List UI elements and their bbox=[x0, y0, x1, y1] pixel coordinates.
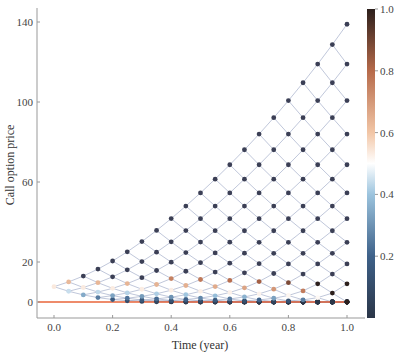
tree-edge bbox=[230, 179, 245, 193]
tree-edge bbox=[274, 193, 289, 206]
colorbar-tick-label: 0.6 bbox=[380, 127, 394, 139]
colorbar-tick-label: 0.8 bbox=[380, 65, 394, 77]
tree-edge bbox=[288, 193, 303, 206]
tree-edge bbox=[215, 242, 230, 253]
tree-nodes bbox=[52, 22, 350, 305]
tree-node bbox=[330, 291, 335, 296]
tree-edge bbox=[113, 261, 128, 270]
tree-node bbox=[257, 298, 262, 303]
tree-edge bbox=[274, 118, 289, 134]
tree-edge bbox=[303, 284, 318, 291]
tree-node bbox=[125, 290, 130, 295]
tree-edge bbox=[332, 231, 347, 243]
tree-edge bbox=[259, 134, 274, 150]
tree-edge bbox=[83, 269, 98, 276]
tree-edge bbox=[98, 261, 113, 269]
tree-edge bbox=[288, 165, 303, 179]
tree-edge bbox=[318, 179, 333, 193]
tree-edge bbox=[230, 193, 245, 206]
tree-edge bbox=[171, 253, 186, 263]
tree-node bbox=[96, 280, 101, 285]
tree-node bbox=[227, 278, 232, 283]
tree-node bbox=[315, 281, 320, 286]
tree-edge bbox=[171, 279, 186, 286]
tree-edge bbox=[244, 231, 259, 243]
tree-edge bbox=[230, 206, 245, 219]
tree-edge bbox=[259, 179, 274, 193]
tree-edge bbox=[318, 101, 333, 118]
tree-edge bbox=[288, 253, 303, 264]
tree-node bbox=[257, 240, 262, 245]
tree-node bbox=[271, 271, 276, 276]
tree-node bbox=[315, 62, 320, 67]
colorbar-bar bbox=[367, 9, 375, 318]
tree-node bbox=[345, 281, 350, 286]
tree-node bbox=[242, 147, 247, 152]
tree-edge bbox=[274, 179, 289, 193]
tree-edge bbox=[288, 264, 303, 274]
tree-node bbox=[286, 162, 291, 167]
tree-edge bbox=[171, 242, 186, 253]
tree-edge bbox=[318, 150, 333, 165]
tree-node bbox=[125, 249, 130, 254]
tree-edge bbox=[332, 219, 347, 231]
tree-edge bbox=[230, 150, 245, 165]
tree-edge bbox=[274, 283, 289, 290]
tree-edge bbox=[288, 134, 303, 150]
tree-node bbox=[198, 190, 203, 195]
tree-edge bbox=[303, 219, 318, 231]
tree-node bbox=[330, 204, 335, 209]
tree-node bbox=[154, 268, 159, 273]
tree-node bbox=[183, 269, 188, 274]
tree-node bbox=[110, 274, 115, 279]
tree-node bbox=[198, 260, 203, 265]
tree-node bbox=[198, 289, 203, 294]
tree-edge bbox=[274, 231, 289, 243]
tree-node bbox=[66, 279, 71, 284]
tree-edge bbox=[127, 252, 142, 262]
tree-node bbox=[345, 162, 350, 167]
tree-node bbox=[125, 267, 130, 272]
tree-edge bbox=[303, 101, 318, 118]
tree-node bbox=[257, 291, 262, 296]
tree-node bbox=[213, 270, 218, 275]
tree-node bbox=[169, 288, 174, 293]
tree-edge bbox=[259, 274, 274, 282]
tree-node bbox=[345, 216, 350, 221]
tree-node bbox=[286, 98, 291, 103]
colorbar: 0.20.40.60.81.0 bbox=[367, 3, 394, 318]
tree-edge bbox=[288, 101, 303, 118]
tree-node bbox=[330, 42, 335, 47]
tree-edge bbox=[186, 271, 201, 279]
tree-edge bbox=[201, 279, 216, 286]
tree-node bbox=[183, 228, 188, 233]
tree-edge bbox=[303, 242, 318, 253]
tree-node bbox=[330, 80, 335, 85]
tree-node bbox=[183, 297, 188, 302]
tree-edge bbox=[274, 134, 289, 150]
tree-edge bbox=[332, 293, 347, 302]
tree-node bbox=[154, 282, 159, 287]
tree-edge bbox=[274, 206, 289, 219]
tree-node bbox=[257, 279, 262, 284]
tree-edge bbox=[157, 252, 172, 262]
tree-node bbox=[183, 292, 188, 297]
tree-edge bbox=[230, 165, 245, 179]
tree-node bbox=[227, 297, 232, 302]
tree-edge bbox=[186, 231, 201, 242]
tree-node bbox=[227, 190, 232, 195]
tree-edge bbox=[332, 101, 347, 118]
colorbar-tick-label: 0.2 bbox=[380, 250, 394, 262]
tree-node bbox=[183, 283, 188, 288]
tree-edge bbox=[244, 242, 259, 253]
tree-node bbox=[140, 294, 145, 299]
tree-edge bbox=[215, 272, 230, 280]
tree-node bbox=[330, 228, 335, 233]
tree-node bbox=[81, 285, 86, 290]
tree-edge bbox=[259, 282, 274, 290]
tree-edge bbox=[318, 274, 333, 284]
tree-edge bbox=[332, 274, 347, 284]
tree-node bbox=[140, 275, 145, 280]
tree-edge bbox=[157, 230, 172, 241]
tree-edge bbox=[288, 179, 303, 193]
